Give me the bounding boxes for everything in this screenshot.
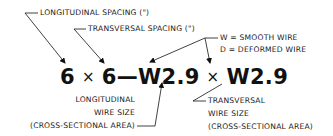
longitudinal-spacing-label: LONGITUDINAL SPACING (") [40, 9, 149, 17]
legend-smooth-wire: W = SMOOTH WIRE [220, 34, 298, 42]
longitudinal-wire-size-line3: (CROSS-SECTIONAL AREA) [30, 122, 135, 130]
formula-times-2: × [207, 68, 220, 86]
transversal-spacing-arrow [74, 29, 104, 63]
mesh-designation-formula: 6×6—W2.9×W2.9 [60, 67, 288, 88]
longitudinal-wire-size-arrow [137, 83, 162, 126]
transversal-spacing-label: TRANSVERSAL SPACING (") [88, 25, 195, 33]
legend-arrow-longitudinal [150, 38, 205, 62]
longitudinal-spacing-arrow [25, 13, 65, 63]
formula-transversal-wire: W2.9 [226, 65, 288, 89]
legend-arrow-transversal [205, 38, 210, 63]
transversal-wire-size-line2: WIRE SIZE [208, 110, 249, 118]
formula-times-1: × [82, 68, 95, 86]
formula-longitudinal-wire: W2.9 [138, 65, 200, 89]
longitudinal-wire-size-line2: WIRE SIZE [94, 109, 135, 117]
transversal-wire-size-line3: (CROSS-SECTIONAL AREA) [208, 123, 313, 131]
longitudinal-wire-size-line1: LONGITUDINAL [75, 96, 135, 104]
legend-deformed-wire: D = DEFORMED WIRE [220, 46, 306, 54]
formula-transversal-spacing: 6 [102, 65, 117, 89]
formula-dash: — [117, 65, 138, 89]
wire-mesh-designation-diagram: LONGITUDINAL SPACING (") TRANSVERSAL SPA… [0, 0, 333, 136]
formula-longitudinal-spacing: 6 [60, 65, 75, 89]
transversal-wire-size-line1: TRANSVERSAL [208, 97, 265, 105]
